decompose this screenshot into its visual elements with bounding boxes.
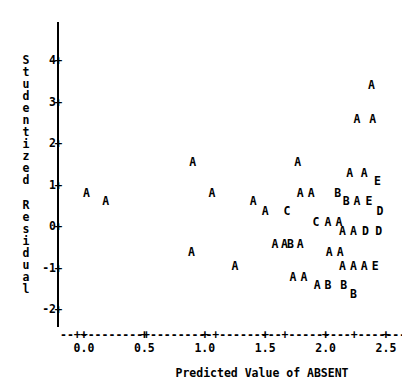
x-tick-mark: +: [259, 328, 272, 341]
data-point: A: [248, 195, 259, 207]
data-point: A: [344, 167, 355, 179]
data-point: B: [323, 279, 334, 291]
data-point: A: [348, 225, 359, 237]
x-tick-mark: +: [138, 328, 151, 341]
x-tick-label: 1.5: [245, 341, 285, 355]
data-point: A: [366, 79, 377, 91]
y-axis-title-char: d: [23, 247, 30, 259]
data-point: E: [372, 175, 383, 187]
data-point: A: [359, 167, 370, 179]
data-point: C: [281, 205, 292, 217]
data-point: D: [373, 225, 384, 237]
data-point: A: [295, 238, 306, 250]
x-tick-label: 0.5: [124, 341, 164, 355]
y-tick-label: 3: [28, 96, 56, 109]
data-point: A: [323, 216, 334, 228]
data-point: A: [359, 260, 370, 272]
data-point: A: [335, 246, 346, 258]
data-point: A: [186, 246, 197, 258]
y-tick-label: 0: [28, 220, 56, 233]
x-axis-title-text: Predicted Value of ABSENT: [65, 366, 348, 380]
x-tick-label: 1.0: [185, 341, 225, 355]
data-point: A: [312, 279, 323, 291]
data-point: B: [348, 288, 359, 300]
data-point: A: [100, 195, 111, 207]
y-axis-title-char: i: [23, 235, 30, 247]
x-axis-title: Predicted Value of ABSENT: [0, 366, 414, 380]
data-point: A: [187, 156, 198, 168]
data-point: B: [341, 195, 352, 207]
x-tick-label: 0.0: [64, 341, 104, 355]
y-axis-title-char: l: [23, 283, 30, 295]
data-point: D: [360, 225, 371, 237]
y-tick-label: 1: [28, 179, 56, 192]
data-point: A: [81, 187, 92, 199]
data-point: A: [324, 246, 335, 258]
x-tick-mark: +: [319, 328, 332, 341]
y-axis-title-char: R: [23, 199, 30, 211]
data-point: A: [306, 187, 317, 199]
data-point: A: [292, 156, 303, 168]
x-tick-label: 2.0: [306, 341, 346, 355]
x-tick-mark: +: [380, 328, 393, 341]
data-point: A: [207, 187, 218, 199]
data-point: A: [337, 260, 348, 272]
scatter-plot-figure: StudentizedxResidual +4+3+2+1+0+-1+-2 --…: [0, 0, 414, 387]
data-point: E: [364, 195, 375, 207]
y-tick-label: -2: [28, 303, 56, 316]
x-tick-mark: +: [78, 328, 91, 341]
data-point: D: [374, 205, 385, 217]
x-tick-mark: +: [198, 328, 211, 341]
data-point: A: [352, 113, 363, 125]
y-axis-title: StudentizedxResidual: [19, 54, 33, 295]
data-point: A: [298, 271, 309, 283]
data-point: A: [230, 260, 241, 272]
data-point: A: [295, 187, 306, 199]
data-point: C: [310, 216, 321, 228]
data-point: A: [348, 260, 359, 272]
data-point: A: [352, 195, 363, 207]
x-tick-label: 2.5: [366, 341, 406, 355]
data-point: A: [337, 225, 348, 237]
x-axis-line: --+---------+---------+---------+-------…: [60, 330, 402, 340]
data-point: E: [370, 260, 381, 272]
y-tick-label: 2: [28, 137, 56, 150]
data-point: A: [367, 113, 378, 125]
y-tick-label: 4: [28, 54, 56, 67]
y-tick-label: -1: [28, 262, 56, 275]
data-point: A: [287, 271, 298, 283]
data-point: A: [260, 205, 271, 217]
